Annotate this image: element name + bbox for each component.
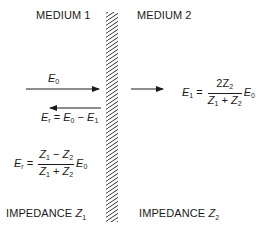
medium-1-label: MEDIUM 1: [36, 9, 91, 21]
incident-wave-label: E0: [48, 72, 59, 85]
reflected-definition-equation: Er = E0 − E1: [41, 111, 98, 124]
impedance-2-label: IMPEDANCE Z2: [139, 207, 219, 221]
reflected-equation: Er = Z1 − Z2Z1 + Z2E0: [14, 148, 87, 181]
medium-2-label: MEDIUM 2: [137, 9, 192, 21]
transmitted-equation: E1 = 2Z2Z1 + Z2E0: [182, 77, 255, 110]
interface-wall: [106, 12, 118, 222]
impedance-1-label: IMPEDANCE Z1: [6, 207, 86, 221]
diagram-graphics: [0, 0, 266, 237]
